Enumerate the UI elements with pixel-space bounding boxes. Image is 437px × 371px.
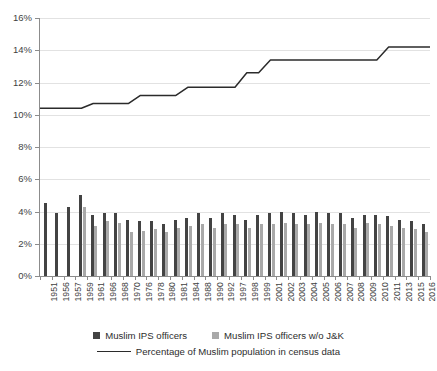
x-tick-mark	[430, 276, 431, 280]
x-axis-label-2007: 2007	[345, 282, 355, 302]
x-tick-mark	[158, 276, 159, 280]
x-tick-mark	[324, 276, 325, 280]
x-axis-label-1957: 1957	[73, 282, 83, 302]
x-axis-label-2015: 2015	[416, 282, 426, 302]
x-axis-label-1992: 1992	[226, 282, 236, 302]
x-tick-mark	[146, 276, 147, 280]
legend-item-muslim-ips-officers-wo-jk: Muslim IPS officers w/o J&K	[212, 330, 344, 341]
census-population-line	[40, 47, 430, 108]
legend-label-2: Percentage of Muslim population in censu…	[136, 346, 340, 357]
x-axis-label-2016: 2016	[427, 282, 437, 302]
x-tick-mark	[194, 276, 195, 280]
x-axis-label-2004: 2004	[309, 282, 319, 302]
x-tick-mark	[371, 276, 372, 280]
x-axis-label-1999: 1999	[262, 282, 272, 302]
x-axis-label-1998: 1998	[250, 282, 260, 302]
x-axis-label-1956: 1956	[61, 282, 71, 302]
x-axis-label-2009: 2009	[368, 282, 378, 302]
legend-swatch-dark-icon	[93, 332, 100, 339]
chart-container: 0%2%4%6%8%10%12%14%16% 19511956195719591…	[0, 0, 437, 371]
legend-item-muslim-population-census: Percentage of Muslim population in censu…	[97, 346, 340, 357]
x-tick-mark	[229, 276, 230, 280]
x-tick-mark	[312, 276, 313, 280]
x-tick-mark	[170, 276, 171, 280]
legend-row-1: Muslim IPS officers Muslim IPS officers …	[0, 330, 437, 341]
x-tick-mark	[253, 276, 254, 280]
x-axis-label-1966: 1966	[108, 282, 118, 302]
x-tick-mark	[406, 276, 407, 280]
legend-swatch-line-icon	[97, 351, 131, 352]
x-axis-label-1959: 1959	[85, 282, 95, 302]
x-tick-mark	[359, 276, 360, 280]
x-tick-mark	[276, 276, 277, 280]
x-tick-mark	[265, 276, 266, 280]
legend-label-0: Muslim IPS officers	[105, 330, 187, 341]
x-axis-label-1997: 1997	[238, 282, 248, 302]
x-tick-mark	[111, 276, 112, 280]
x-axis-label-2013: 2013	[404, 282, 414, 302]
x-tick-mark	[418, 276, 419, 280]
y-axis-label-16%: 16%	[0, 12, 32, 23]
x-tick-mark	[52, 276, 53, 280]
x-tick-mark	[383, 276, 384, 280]
x-tick-mark	[40, 276, 41, 280]
x-tick-mark	[182, 276, 183, 280]
line-series	[40, 18, 430, 276]
y-axis-label-10%: 10%	[0, 109, 32, 120]
x-axis-label-1980: 1980	[167, 282, 177, 302]
x-axis-label-1988: 1988	[203, 282, 213, 302]
legend-item-muslim-ips-officers: Muslim IPS officers	[93, 330, 187, 341]
x-axis-label-2001: 2001	[274, 282, 284, 302]
y-axis-label-2%: 2%	[0, 238, 32, 249]
x-tick-mark	[395, 276, 396, 280]
x-axis-label-2006: 2006	[333, 282, 343, 302]
x-axis-label-1990: 1990	[215, 282, 225, 302]
x-axis-label-1976: 1976	[144, 282, 154, 302]
x-tick-mark	[99, 276, 100, 280]
x-axis-label-2010: 2010	[380, 282, 390, 302]
y-axis-label-6%: 6%	[0, 173, 32, 184]
y-axis-label-12%: 12%	[0, 77, 32, 88]
x-tick-mark	[217, 276, 218, 280]
y-axis-label-0%: 0%	[0, 270, 32, 281]
x-axis-label-2011: 2011	[392, 282, 402, 301]
x-tick-mark	[205, 276, 206, 280]
x-tick-mark	[288, 276, 289, 280]
x-axis-label-2005: 2005	[321, 282, 331, 302]
x-tick-mark	[335, 276, 336, 280]
legend-row-2: Percentage of Muslim population in censu…	[0, 346, 437, 357]
x-tick-mark	[241, 276, 242, 280]
x-axis-label-1981: 1981	[179, 282, 189, 302]
x-axis-label-1978: 1978	[156, 282, 166, 302]
x-axis-label-1970: 1970	[132, 282, 142, 302]
x-axis-label-2008: 2008	[356, 282, 366, 302]
y-axis-label-14%: 14%	[0, 44, 32, 55]
x-tick-mark	[300, 276, 301, 280]
x-tick-mark	[123, 276, 124, 280]
x-axis-label-2002: 2002	[286, 282, 296, 302]
x-axis-label-1961: 1961	[96, 282, 106, 302]
x-tick-mark	[75, 276, 76, 280]
chart-legend: Muslim IPS officers Muslim IPS officers …	[0, 330, 437, 357]
x-tick-mark	[64, 276, 65, 280]
x-axis-label-2003: 2003	[297, 282, 307, 302]
y-axis-label-4%: 4%	[0, 206, 32, 217]
x-axis-label-1968: 1968	[120, 282, 130, 302]
x-axis-labels: 1951195619571959196119661968197019761978…	[40, 282, 430, 316]
legend-swatch-light-icon	[212, 332, 219, 339]
y-axis-label-8%: 8%	[0, 141, 32, 152]
x-axis-label-1951: 1951	[49, 282, 59, 302]
x-tick-mark	[87, 276, 88, 280]
x-axis-label-1984: 1984	[191, 282, 201, 302]
x-axis-ticks	[40, 276, 430, 281]
legend-label-1: Muslim IPS officers w/o J&K	[224, 330, 344, 341]
x-tick-mark	[135, 276, 136, 280]
x-tick-mark	[347, 276, 348, 280]
